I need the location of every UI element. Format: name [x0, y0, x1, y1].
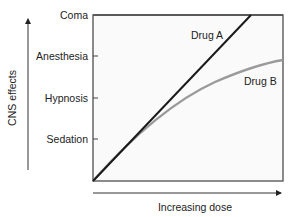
tick-label-anesthesia: Anesthesia	[36, 50, 88, 62]
tick-label-sedation: Sedation	[47, 133, 89, 145]
chart: Coma Anesthesia Hypnosis Sedation CNS ef…	[0, 0, 300, 217]
tick-label-coma: Coma	[60, 9, 88, 21]
y-axis-title: CNS effects	[6, 70, 18, 126]
label-drug-b: Drug B	[244, 75, 277, 87]
tick-label-hypnosis: Hypnosis	[45, 92, 88, 104]
x-axis-title: Increasing dose	[158, 201, 232, 213]
label-drug-a: Drug A	[191, 29, 223, 41]
